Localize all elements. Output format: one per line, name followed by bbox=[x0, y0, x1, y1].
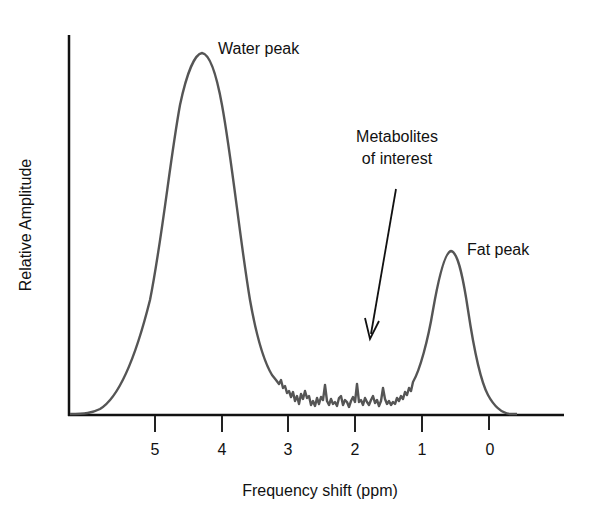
spectrum-chart bbox=[0, 0, 611, 519]
x-tick-label-0: 0 bbox=[486, 441, 495, 459]
x-tick-label-2: 2 bbox=[351, 441, 360, 459]
metabolites-label: Metabolites of interest bbox=[356, 126, 438, 170]
metabolites-label-line2: of interest bbox=[356, 148, 438, 170]
metabolites-label-line1: Metabolites bbox=[356, 126, 438, 148]
x-ticks bbox=[155, 416, 489, 432]
x-tick-label-1: 1 bbox=[418, 441, 427, 459]
spectrum-line bbox=[70, 53, 517, 414]
metabolites-arrow bbox=[371, 189, 396, 334]
x-tick-label-5: 5 bbox=[151, 441, 160, 459]
y-axis-title: Relative Amplitude bbox=[17, 159, 35, 292]
fat-peak-label: Fat peak bbox=[467, 241, 529, 259]
x-axis-title: Frequency shift (ppm) bbox=[242, 482, 398, 500]
x-tick-label-4: 4 bbox=[218, 441, 227, 459]
water-peak-label: Water peak bbox=[218, 40, 299, 58]
x-tick-label-3: 3 bbox=[284, 441, 293, 459]
